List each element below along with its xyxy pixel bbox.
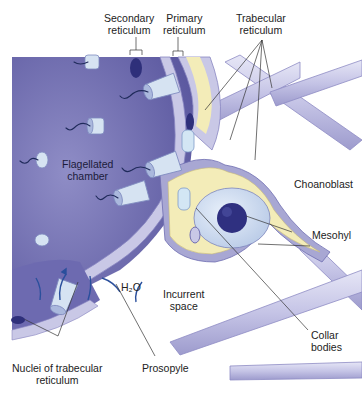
label-mesohyl: Mesohyl <box>312 229 351 241</box>
choanoblast-cell <box>160 159 330 262</box>
label-trabecular-reticulum: Trabecular reticulum <box>236 12 286 36</box>
label-flagellated-chamber: Flagellated chamber <box>62 158 113 182</box>
label-prosopyle: Prosopyle <box>142 362 189 374</box>
label-secondary-reticulum: Secondary reticulum <box>104 12 154 36</box>
label-h2o: H₂O <box>121 281 141 293</box>
label-nuclei-trabecular-reticulum: Nuclei of trabecular reticulum <box>12 362 102 386</box>
label-incurrent-space: Incurrent space <box>163 288 204 312</box>
label-choanoblast: Choanoblast <box>294 178 353 190</box>
choanoblast-nucleus <box>217 203 247 233</box>
sponge-chamber-diagram <box>0 0 362 394</box>
label-primary-reticulum: Primary reticulum <box>163 12 206 36</box>
secondary-reticulum-nucleus <box>130 58 142 78</box>
label-collar-bodies: Collar bodies <box>311 329 342 353</box>
